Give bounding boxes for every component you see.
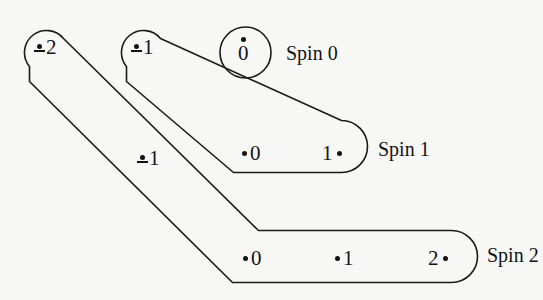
caption-spin-2: Spin 2 bbox=[487, 245, 539, 265]
state-marker-spin1-zero: 0 bbox=[242, 143, 261, 164]
dot-over-minus-icon bbox=[137, 155, 148, 163]
state-value-spin1-one: 1 bbox=[322, 143, 333, 164]
state-marker-spin2-one: 1 bbox=[335, 248, 354, 269]
state-value-spin1-neg1: 1 bbox=[143, 37, 154, 58]
state-marker-spin1-neg1: 1 bbox=[131, 37, 154, 58]
state-dot-icon bbox=[134, 44, 139, 49]
minus-sign-icon bbox=[137, 161, 148, 163]
multiplet-outlines bbox=[0, 0, 543, 300]
minus-sign-icon bbox=[34, 50, 45, 52]
state-value-spin0-zero: 0 bbox=[238, 43, 249, 64]
state-dot-icon bbox=[37, 44, 42, 49]
dot-over-minus-icon bbox=[131, 44, 142, 52]
state-dot-icon bbox=[243, 256, 248, 261]
state-value-spin2-one: 1 bbox=[343, 248, 354, 269]
minus-sign-icon bbox=[131, 50, 142, 52]
caption-spin-1: Spin 1 bbox=[378, 139, 430, 159]
state-marker-spin2-neg1: 1 bbox=[137, 148, 160, 169]
state-value-spin2-neg2: 2 bbox=[46, 37, 57, 58]
state-value-spin2-neg1: 1 bbox=[149, 148, 160, 169]
state-marker-spin0-zero: 0 bbox=[238, 37, 249, 64]
state-dot-icon bbox=[335, 256, 340, 261]
state-dot-icon bbox=[337, 151, 342, 156]
spin-multiplet-figure: 0 Spin 0 1 0 1 Spin 1 2 bbox=[0, 0, 543, 300]
dot-over-minus-icon bbox=[34, 44, 45, 52]
state-marker-spin1-one: 1 bbox=[322, 143, 342, 164]
state-value-spin2-two: 2 bbox=[428, 248, 439, 269]
state-marker-spin2-two: 2 bbox=[428, 248, 448, 269]
state-dot-icon bbox=[443, 256, 448, 261]
state-value-spin2-zero: 0 bbox=[251, 248, 262, 269]
state-value-spin1-zero: 0 bbox=[250, 143, 261, 164]
state-dot-icon bbox=[242, 151, 247, 156]
state-marker-spin2-zero: 0 bbox=[243, 248, 262, 269]
caption-spin-0: Spin 0 bbox=[286, 43, 338, 63]
state-marker-spin2-neg2: 2 bbox=[34, 37, 57, 58]
state-dot-icon bbox=[140, 155, 145, 160]
